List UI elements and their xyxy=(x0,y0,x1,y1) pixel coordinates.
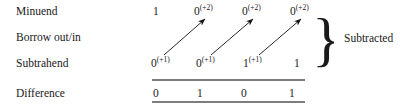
row-label-difference: Difference xyxy=(16,86,65,100)
subtrahend-cell-1: 0(+1) xyxy=(151,56,170,70)
subtrahend-sup-3: (+1) xyxy=(249,55,262,64)
difference-cell-3: 0 xyxy=(241,86,247,100)
row-label-borrow: Borrow out/in xyxy=(16,30,81,44)
minuend-cell-4: 0(+2) xyxy=(290,4,309,18)
minuend-sup-4: (+2) xyxy=(296,3,309,12)
difference-cell-4: 1 xyxy=(289,86,295,100)
difference-rule-top xyxy=(152,79,305,81)
minuend-cell-3: 0(+2) xyxy=(242,4,261,18)
borrow-arrow-2 xyxy=(211,19,253,55)
subtracted-note: Subtracted xyxy=(344,31,393,45)
grouping-brace: } xyxy=(312,8,334,70)
borrow-arrow-3 xyxy=(259,19,301,55)
subtrahend-sup-2: (+1) xyxy=(202,55,215,64)
difference-cell-2: 1 xyxy=(197,86,203,100)
subtraction-figure: Minuend Borrow out/in Subtrahend Differe… xyxy=(0,0,417,111)
difference-cell-1: 0 xyxy=(153,86,159,100)
difference-rule-bottom xyxy=(152,101,305,103)
subtrahend-cell-3: 1(+1) xyxy=(243,56,262,70)
minuend-cell-1: 1 xyxy=(153,4,159,18)
minuend-sup-3: (+2) xyxy=(248,3,261,12)
subtrahend-cell-4: 1 xyxy=(294,56,300,70)
minuend-sup-2: (+2) xyxy=(200,3,213,12)
borrow-arrow-1 xyxy=(164,19,205,55)
row-label-subtrahend: Subtrahend xyxy=(16,56,68,70)
minuend-cell-2: 0(+2) xyxy=(194,4,213,18)
subtrahend-sup-1: (+1) xyxy=(157,55,170,64)
subtrahend-cell-2: 0(+1) xyxy=(196,56,215,70)
subtrahend-digit-4: 1 xyxy=(294,57,300,69)
minuend-digit-1: 1 xyxy=(153,5,159,17)
row-label-minuend: Minuend xyxy=(16,4,58,18)
